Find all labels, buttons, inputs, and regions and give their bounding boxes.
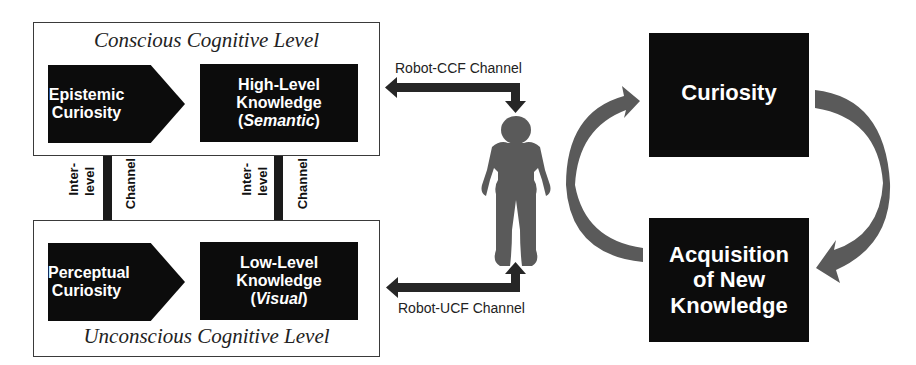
conscious-level-title: Conscious Cognitive Level (33, 28, 380, 53)
cycle-arrow-right (815, 90, 890, 283)
robot-ucf-channel-label: Robot-UCF Channel (398, 300, 525, 316)
high-level-knowledge-box: High-Level Knowledge (Semantic) (200, 64, 358, 142)
inter-level-label-right-a: Inter- (240, 163, 253, 196)
robot-ucf-arrow (386, 262, 526, 298)
inter-level-label-left-b: level (83, 167, 96, 196)
cycle-arrow-left (566, 86, 643, 262)
low-level-knowledge-box: Low-Level Knowledge (Visual) (200, 242, 358, 320)
acquisition-of-new-knowledge-box: Acquisition of New Knowledge (649, 218, 809, 342)
inter-level-label-right-c: Channel (296, 158, 309, 209)
epistemic-curiosity-line2: Curiosity (48, 104, 125, 122)
high-level-knowledge-line2: Knowledge (236, 94, 321, 112)
curiosity-box: Curiosity (649, 33, 809, 157)
high-level-knowledge-line1: High-Level (238, 76, 320, 94)
low-level-knowledge-line1: Low-Level (240, 254, 318, 272)
robot-ccf-channel-label: Robot-CCF Channel (395, 60, 522, 76)
low-level-knowledge-type: (Visual) (250, 290, 307, 308)
unconscious-level-title: Unconscious Cognitive Level (33, 324, 380, 349)
acquisition-line2: of New (693, 267, 765, 292)
perceptual-curiosity-line2: Curiosity (48, 282, 125, 300)
high-level-knowledge-type: (Semantic) (238, 112, 320, 130)
inter-level-label-left-a: Inter- (67, 163, 80, 196)
acquisition-line1: Acquisition (669, 242, 789, 267)
inter-level-label-right-b: level (256, 167, 269, 196)
inter-level-label-left-c: Channel (124, 158, 137, 209)
robot-silhouette-icon (482, 116, 551, 266)
robot-ccf-arrow (385, 77, 526, 113)
low-level-knowledge-line2: Knowledge (236, 272, 321, 290)
acquisition-line3: Knowledge (670, 293, 787, 318)
perceptual-curiosity-line1: Perceptual (48, 264, 125, 282)
epistemic-curiosity-line1: Epistemic (48, 86, 125, 104)
